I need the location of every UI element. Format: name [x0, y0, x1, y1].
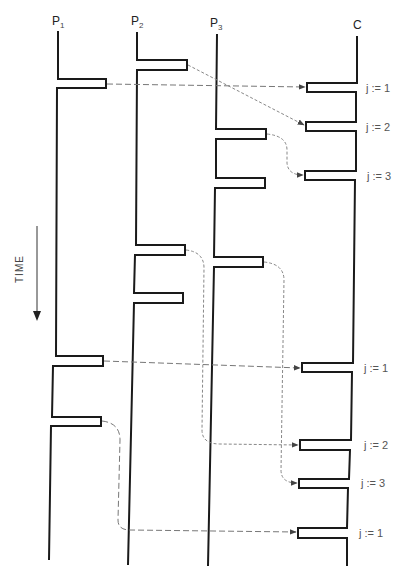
process-label-p3: P3 — [210, 16, 223, 32]
receive-label: j := 2 — [365, 121, 390, 133]
receive-label: j := 1 — [365, 82, 390, 94]
message-p3-to-c-3 — [267, 134, 303, 175]
timeline-p1 — [49, 31, 106, 560]
receive-label: j := 3 — [366, 170, 391, 182]
receive-label: j := 3 — [360, 477, 385, 489]
receive-label: j := 1 — [358, 527, 383, 539]
process-label-p1: P1 — [52, 14, 65, 30]
receive-label: j := 2 — [363, 439, 388, 451]
process-label-p2: P2 — [131, 14, 144, 30]
timeline-p3 — [208, 34, 266, 566]
process-label-c: C — [353, 18, 362, 32]
timeline-c — [298, 36, 357, 566]
message-timing-diagram: P1 P2 P3 C j := 1 j := 2 j := 3 j := 1 j… — [0, 0, 406, 579]
timeline-p2 — [128, 32, 187, 565]
time-axis-label: TIME — [14, 255, 25, 283]
message-p3-to-c-6 — [264, 262, 297, 483]
message-p2-to-c-2 — [188, 65, 304, 125]
receive-label: j := 1 — [363, 362, 388, 374]
message-p2-to-c-5 — [186, 250, 298, 445]
time-arrowhead-icon — [33, 311, 41, 321]
